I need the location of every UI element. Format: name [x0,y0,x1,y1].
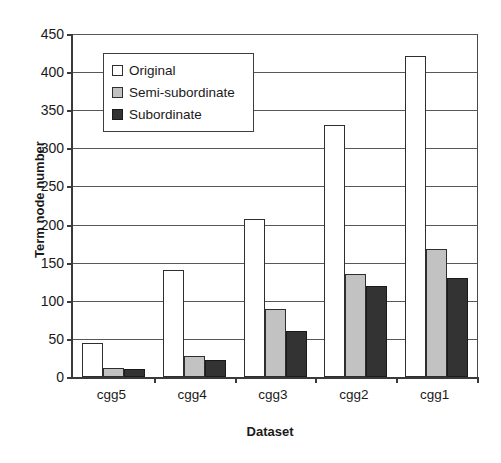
bar [345,274,366,377]
bar [103,368,124,377]
x-axis-tick [315,377,317,383]
y-axis-tick [67,339,73,341]
y-axis-tick-label: 450 [24,26,64,42]
bar [184,356,205,377]
bar [286,331,307,377]
legend-item: Semi-subordinate [112,81,245,103]
bar [426,249,447,377]
y-axis-tick [67,186,73,188]
y-axis-tick [67,225,73,227]
x-axis-tick-label: cgg3 [233,387,314,402]
y-axis-tick-label: 200 [24,217,64,233]
bar [244,219,265,377]
legend-label-semi-subordinate: Semi-subordinate [129,85,235,100]
chart-legend: Original Semi-subordinate Subordinate [103,53,254,132]
y-axis-tick [67,301,73,303]
legend-swatch-original [112,65,123,76]
x-axis-tick [154,377,156,383]
legend-swatch-semi-subordinate [112,87,123,98]
bar-group [324,34,387,377]
bar-chart: Term node number 05010015020025030035040… [0,0,501,463]
x-axis-tick [235,377,237,383]
x-axis-tick [477,377,479,383]
bar [82,343,103,377]
legend-swatch-subordinate [112,109,123,120]
y-axis-tick [67,377,73,379]
x-axis-title: Dataset [60,424,480,439]
bar [124,369,145,377]
legend-item: Original [112,59,245,81]
y-axis-tick [67,110,73,112]
bar [265,309,286,377]
bar [366,286,387,377]
x-axis-tick-label: cgg1 [394,387,475,402]
legend-label-original: Original [129,63,176,78]
legend-item: Subordinate [112,103,245,125]
y-axis-tick [67,34,73,36]
y-axis-tick-label: 100 [24,293,64,309]
y-axis-tick [67,263,73,265]
y-axis-tick-label: 350 [24,102,64,118]
bar [163,270,184,377]
y-axis-tick-label: 300 [24,140,64,156]
x-axis-tick [396,377,398,383]
bar-group [405,34,468,377]
y-axis-tick [67,72,73,74]
y-axis-tick-label: 250 [24,178,64,194]
bar [205,360,226,377]
y-axis-tick-label: 50 [24,331,64,347]
y-axis-tick-label: 400 [24,64,64,80]
x-axis-tick-label: cgg5 [71,387,152,402]
x-axis-tick-label: cgg2 [313,387,394,402]
bar [405,56,426,377]
legend-label-subordinate: Subordinate [129,107,202,122]
bar [447,278,468,377]
y-axis-tick-label: 0 [24,369,64,385]
y-axis-tick [67,148,73,150]
x-axis-tick-label: cgg4 [152,387,233,402]
y-axis-tick-label: 150 [24,255,64,271]
bar [324,125,345,377]
